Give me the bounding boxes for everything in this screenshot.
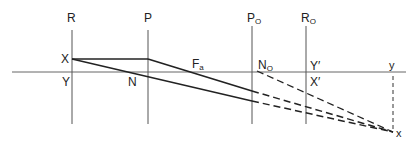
label-N: N (128, 76, 137, 88)
label-Y-prime: Y′ (310, 60, 320, 72)
label-N-O: NO (258, 59, 273, 73)
label-Y: Y (62, 76, 70, 88)
label-y: y (389, 60, 395, 71)
ray-diagram (0, 0, 416, 146)
label-P: P (144, 12, 152, 24)
label-X: X (61, 53, 69, 65)
ray-nodal-segment (72, 59, 252, 101)
label-P-O: PO (247, 12, 261, 26)
ray-nodal-dashed (252, 101, 393, 132)
label-X-prime: X′ (310, 76, 320, 88)
label-R: R (67, 12, 76, 24)
label-R-O: RO (301, 12, 316, 26)
label-F-a: Fa (192, 58, 204, 72)
ray-focal-dashed (252, 91, 393, 132)
label-x: x (396, 128, 402, 139)
ray-emergent-dashed (257, 71, 393, 132)
